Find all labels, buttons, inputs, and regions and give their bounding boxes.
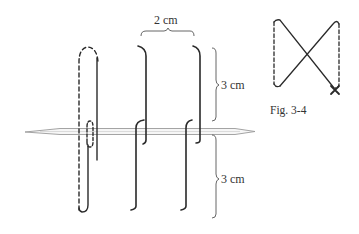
- figure-caption: Fig. 3-4: [270, 104, 307, 117]
- width-dimension-label: 2 cm: [154, 13, 178, 27]
- stitch-2: [131, 46, 146, 210]
- stitch-diagram: 2 cm 3 cm 3 cm Fig. 3-4: [0, 0, 359, 234]
- upper-height-brace: [212, 48, 219, 121]
- needle-shape: [25, 129, 255, 135]
- stitch-3: [181, 46, 200, 210]
- upper-height-label: 3 cm: [221, 78, 245, 92]
- width-brace: [141, 28, 194, 36]
- fig-3-4-cross-stitch: [274, 20, 339, 94]
- lower-height-brace: [212, 135, 219, 218]
- lower-height-label: 3 cm: [221, 172, 245, 186]
